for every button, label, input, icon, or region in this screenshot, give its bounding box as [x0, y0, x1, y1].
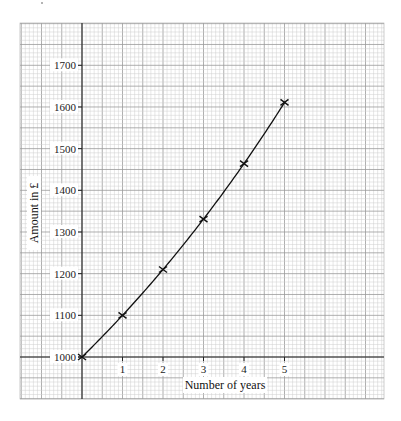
x-tick-label: 1: [120, 363, 126, 375]
y-tick-label: 1600: [54, 101, 77, 113]
graph-paper-grid: [20, 23, 384, 399]
y-tick-label: 1400: [54, 184, 77, 196]
y-axis-title-group: Amount in £: [27, 176, 41, 250]
chart: 10001100120013001400150016001700 12345 A…: [0, 0, 401, 421]
y-tick-label: 1500: [54, 143, 77, 155]
x-axis-ticks: 12345: [118, 357, 290, 376]
y-tick-label: 1300: [54, 226, 77, 238]
stray-dot: [41, 2, 43, 4]
x-tick-label: 2: [160, 363, 166, 375]
y-tick-label: 1200: [54, 268, 77, 280]
y-axis-title: Amount in £: [27, 183, 41, 244]
x-tick-label: 4: [241, 363, 247, 375]
x-axis-title: Number of years: [185, 378, 266, 392]
y-tick-label: 1100: [54, 309, 76, 321]
y-tick-label: 1000: [54, 351, 77, 363]
x-tick-label: 5: [282, 363, 288, 375]
x-tick-label: 3: [201, 363, 207, 375]
x-axis-title-group: Number of years: [183, 377, 267, 393]
y-tick-label: 1700: [54, 59, 77, 71]
